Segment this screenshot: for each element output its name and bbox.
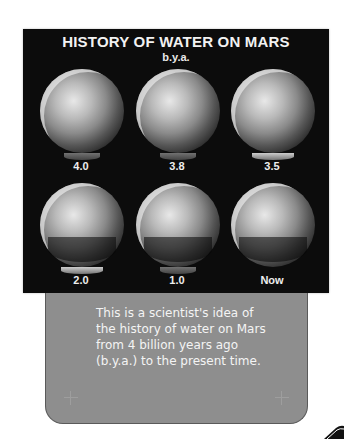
caption-text: This is a scientist's idea of the histor… [96,305,266,369]
panel-label: Now [222,274,322,286]
polar-ice-cap [160,153,196,160]
mars-panel-3-8: 3.8 [127,67,227,179]
mars-panel-3-5: 3.5 [222,67,322,179]
mars-panel-2-0: 2.0 [31,181,131,293]
panel-label: 2.0 [31,274,131,286]
mars-panel-4-0: 4.0 [31,67,131,179]
panel-label: 1.0 [127,274,227,286]
figure-title: HISTORY OF WATER ON MARS [23,33,329,50]
panel-label: 3.5 [222,160,322,172]
caption-box: This is a scientist's idea of the histor… [45,293,308,424]
mars-panel-now: Now [222,181,322,293]
crosshair-mark-icon [64,391,78,405]
mars-globe-image [40,183,124,267]
polar-ice-cap [61,267,103,274]
panel-label: 4.0 [31,160,131,172]
panel-label: 3.8 [127,160,227,172]
mars-globe-image [231,183,315,267]
polar-ice-cap [160,267,196,274]
figure-subtitle: b.y.a. [23,51,329,63]
polar-ice-cap [64,153,100,160]
mars-globe-image [40,69,124,153]
page-curl-icon [322,425,344,439]
mars-panel-1-0: 1.0 [127,181,227,293]
mars-water-figure: HISTORY OF WATER ON MARS b.y.a. 4.0 3.8 … [23,29,329,293]
crosshair-mark-icon [275,391,289,405]
mars-globe-image [136,183,220,267]
polar-ice-cap [252,153,294,160]
mars-globe-image [231,69,315,153]
mars-globe-image [136,69,220,153]
